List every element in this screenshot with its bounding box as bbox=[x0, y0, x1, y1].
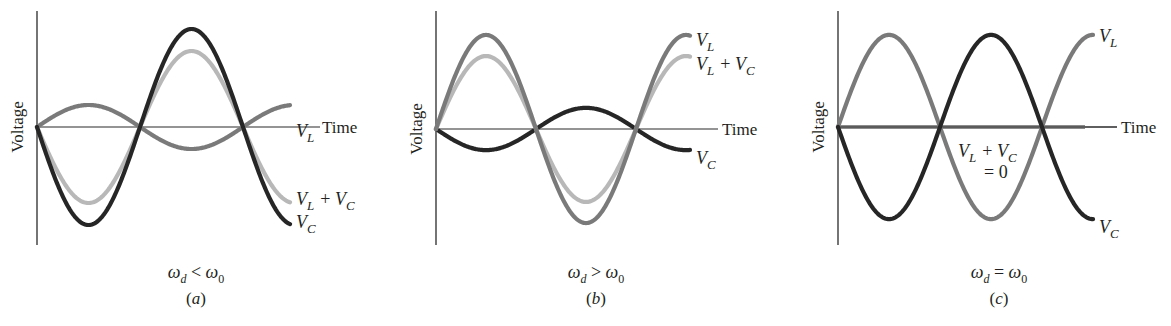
panel-c: VoltageTimeVL VC VL + VC = 0ωd = ω0(c) bbox=[809, 11, 1156, 308]
voltage-axis-label: Voltage bbox=[809, 101, 828, 153]
panel-caption: (a) bbox=[186, 289, 206, 308]
label-vl-plus-vc: VL + VC bbox=[696, 54, 756, 78]
voltage-axis-label: Voltage bbox=[8, 101, 27, 153]
time-axis-label: Time bbox=[322, 118, 357, 137]
label-vl: VL bbox=[1099, 26, 1119, 50]
panel-a: VoltageTimeVL VC VL + VC ωd < ω0(a) bbox=[8, 11, 357, 308]
label-vl: VL bbox=[696, 30, 716, 54]
label-sum-equals-zero: = 0 bbox=[984, 162, 1008, 182]
label-vl: VL bbox=[296, 121, 316, 145]
label-vl-plus-vc: VL + VC bbox=[296, 189, 356, 213]
label-vc: VC bbox=[296, 212, 317, 236]
label-vc: VC bbox=[1099, 217, 1120, 241]
condition-label: ωd < ω0 bbox=[168, 262, 225, 286]
label-vc: VC bbox=[696, 148, 717, 172]
condition-label: ωd = ω0 bbox=[971, 262, 1028, 286]
resonance-figure: VoltageTimeVL VC VL + VC ωd < ω0(a) Volt… bbox=[0, 0, 1171, 326]
condition-label: ωd > ω0 bbox=[568, 262, 625, 286]
time-axis-label: Time bbox=[1121, 118, 1156, 137]
time-axis-label: Time bbox=[722, 120, 757, 139]
panel-caption: (c) bbox=[990, 289, 1009, 308]
voltage-axis-label: Voltage bbox=[407, 103, 426, 155]
panel-caption: (b) bbox=[586, 289, 606, 308]
panel-b: VoltageTimeVL VC VL + VC ωd > ω0(b) bbox=[407, 11, 757, 308]
